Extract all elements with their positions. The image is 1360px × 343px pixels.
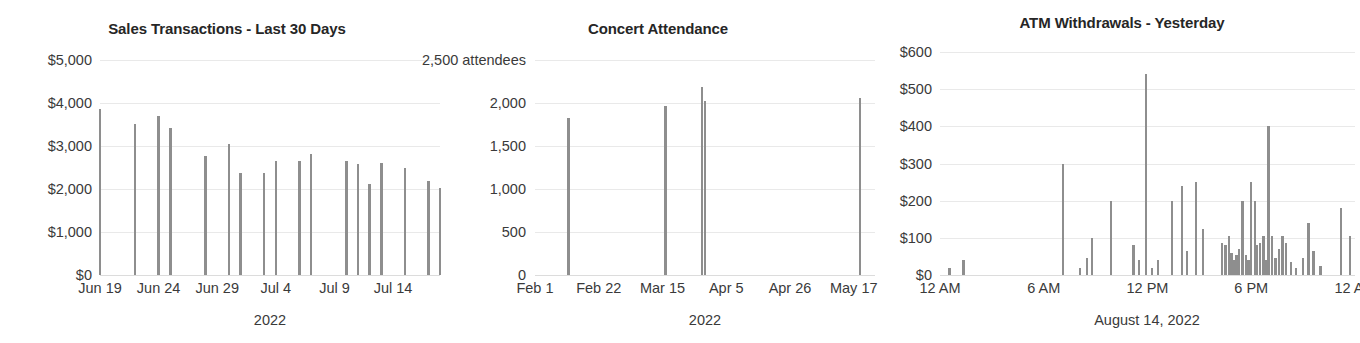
x-tick-label: 6 PM: [1234, 280, 1268, 296]
bar: [1319, 266, 1321, 275]
bar: [1062, 164, 1064, 276]
bar: [310, 154, 313, 275]
x-tick-label: Apr 5: [709, 280, 744, 296]
gridline: [535, 275, 875, 276]
gridline: [100, 275, 440, 276]
bar: [1186, 251, 1188, 275]
bar: [1307, 223, 1309, 275]
bar: [1271, 236, 1273, 275]
bar: [1278, 249, 1280, 275]
plot-area-atm-withdrawals: $0$100$200$300$400$500$600: [880, 52, 1360, 275]
gridline: [100, 60, 440, 61]
y-tick-label: $5,000: [48, 52, 92, 68]
bar: [1157, 260, 1159, 275]
bar: [1202, 229, 1204, 275]
plot-area-concert-attendance: 05001,0001,5002,0002,500 attendees: [460, 60, 880, 275]
gridline: [100, 232, 440, 233]
y-axis-labels-sales-transactions: $0$1,000$2,000$3,000$4,000$5,000: [0, 60, 92, 275]
x-tick-label: 12 AM: [919, 280, 960, 296]
bar: [298, 161, 301, 275]
bar: [1274, 258, 1276, 275]
y-tick-label: $200: [900, 193, 932, 209]
chart-panel-concert-attendance: Concert Attendance 05001,0001,5002,0002,…: [460, 0, 880, 343]
gridline: [940, 52, 1355, 53]
x-tick-label: May 17: [830, 280, 878, 296]
bar: [704, 101, 706, 275]
bar: [204, 156, 207, 275]
bar: [345, 161, 348, 275]
y-tick-label: $4,000: [48, 95, 92, 111]
bar: [380, 163, 383, 275]
bar: [1312, 251, 1314, 275]
bar: [439, 188, 442, 275]
y-tick-label: $100: [900, 230, 932, 246]
bar: [157, 116, 160, 275]
x-tick-label: Feb 22: [576, 280, 621, 296]
bar: [1340, 208, 1342, 275]
bar: [1250, 182, 1252, 275]
gridline: [940, 201, 1355, 202]
y-axis-labels-atm-withdrawals: $0$100$200$300$400$500$600: [880, 52, 932, 275]
bar: [1079, 268, 1081, 275]
bar: [948, 268, 950, 275]
bar: [1241, 201, 1243, 275]
bar: [567, 118, 569, 275]
x-axis-caption-sales-transactions: 2022: [254, 312, 286, 328]
bar: [404, 168, 407, 276]
x-axis-caption-concert-attendance: 2022: [689, 312, 721, 328]
bar: [169, 128, 172, 275]
bar: [263, 173, 266, 275]
gridline: [940, 238, 1355, 239]
plot-area-sales-transactions: $0$1,000$2,000$3,000$4,000$5,000: [0, 60, 460, 275]
bar: [1151, 268, 1153, 275]
gridline: [535, 60, 875, 61]
gridline: [940, 89, 1355, 90]
plot-canvas-atm-withdrawals: [940, 52, 1355, 275]
y-tick-label: 1,500: [490, 138, 526, 154]
bar: [962, 260, 964, 275]
bar: [1267, 126, 1269, 275]
bar: [1290, 262, 1292, 275]
x-tick-label: Feb 1: [516, 280, 553, 296]
y-tick-label: $600: [900, 44, 932, 60]
x-tick-label: Jul 14: [374, 280, 413, 296]
chart-panel-sales-transactions: Sales Transactions - Last 30 Days $0$1,0…: [0, 0, 460, 343]
y-tick-label: $300: [900, 156, 932, 172]
plot-canvas-sales-transactions: [100, 60, 440, 275]
y-tick-label: $400: [900, 118, 932, 134]
chart-title-atm-withdrawals: ATM Withdrawals - Yesterday: [882, 14, 1360, 31]
y-tick-label: $2,000: [48, 181, 92, 197]
chart-figure-page: Sales Transactions - Last 30 Days $0$1,0…: [0, 0, 1360, 343]
x-axis-caption-atm-withdrawals: August 14, 2022: [1094, 312, 1200, 328]
y-tick-label: 2,500 attendees: [422, 52, 526, 68]
bar: [1224, 245, 1226, 275]
x-tick-label: Jul 9: [319, 280, 350, 296]
x-tick-label: 12 AM: [1334, 280, 1360, 296]
y-tick-label: 500: [502, 224, 526, 240]
x-axis-labels-sales-transactions: Jun 19Jun 24Jun 29Jul 4Jul 9Jul 14: [100, 280, 440, 300]
bar: [1132, 245, 1134, 275]
gridline: [100, 103, 440, 104]
x-tick-label: 12 PM: [1127, 280, 1169, 296]
bar: [701, 87, 703, 275]
x-tick-label: Jun 24: [137, 280, 181, 296]
gridline: [940, 275, 1355, 276]
x-tick-label: Jun 29: [195, 280, 239, 296]
bar: [427, 181, 430, 275]
bar: [1195, 182, 1197, 275]
x-axis-labels-atm-withdrawals: 12 AM6 AM12 PM6 PM12 AM: [940, 280, 1355, 300]
bar: [1285, 243, 1287, 275]
y-axis-labels-concert-attendance: 05001,0001,5002,0002,500 attendees: [460, 60, 526, 275]
bar: [1295, 268, 1297, 275]
x-tick-label: Mar 15: [640, 280, 685, 296]
y-tick-label: $3,000: [48, 138, 92, 154]
x-tick-label: Apr 26: [769, 280, 812, 296]
y-tick-label: $500: [900, 81, 932, 97]
plot-canvas-concert-attendance: [535, 60, 875, 275]
bar: [1349, 236, 1351, 275]
bar: [1171, 201, 1173, 275]
bar: [228, 144, 231, 275]
gridline: [100, 189, 440, 190]
x-axis-labels-concert-attendance: Feb 1Feb 22Mar 15Apr 5Apr 26May 17: [535, 280, 875, 300]
chart-panel-atm-withdrawals: ATM Withdrawals - Yesterday $0$100$200$3…: [880, 0, 1360, 343]
